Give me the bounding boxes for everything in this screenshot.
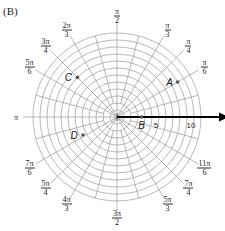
angle-denominator: 6 bbox=[28, 67, 32, 75]
grid-spoke bbox=[95, 131, 113, 199]
angle-label: 7π6 bbox=[25, 159, 35, 176]
angle-denominator: 6 bbox=[28, 168, 32, 176]
angle-denominator: 4 bbox=[44, 46, 48, 54]
angle-denominator: 6 bbox=[202, 168, 206, 176]
grid-spoke bbox=[121, 131, 139, 199]
point-d-label: D bbox=[70, 130, 77, 141]
point-a-label: A bbox=[166, 77, 173, 88]
angle-denominator: 3 bbox=[64, 205, 68, 213]
angle-denominator: 4 bbox=[44, 189, 48, 197]
angle-denominator: 4 bbox=[186, 189, 190, 197]
point-c-label: C bbox=[65, 72, 72, 83]
point-c-marker bbox=[76, 76, 80, 80]
point-b-label: B bbox=[138, 120, 145, 131]
grid-spoke bbox=[131, 95, 199, 113]
angle-label: 7π4 bbox=[183, 180, 193, 197]
angle-label: 4π3 bbox=[61, 196, 71, 213]
angle-denominator: 2 bbox=[115, 17, 119, 25]
grid-spoke bbox=[121, 36, 139, 104]
angle-label: π4 bbox=[185, 37, 191, 54]
angle-label-pi: π bbox=[14, 113, 18, 122]
angle-denominator: 4 bbox=[186, 46, 190, 54]
angle-label: 11π6 bbox=[198, 159, 212, 176]
angle-label: 5π3 bbox=[162, 196, 172, 213]
angle-label: 3π4 bbox=[41, 37, 51, 54]
angle-label: π2 bbox=[114, 8, 120, 25]
angle-denominator: 2 bbox=[115, 219, 119, 227]
angle-label: 2π3 bbox=[61, 21, 71, 38]
point-a-marker bbox=[176, 80, 180, 84]
arrow-head-icon bbox=[219, 113, 225, 122]
angle-denominator: 6 bbox=[202, 67, 206, 75]
radius-label: 10 bbox=[187, 121, 196, 130]
angle-label: π6 bbox=[201, 58, 207, 75]
radius-label: 5 bbox=[154, 121, 158, 130]
angle-denominator: 3 bbox=[165, 30, 169, 38]
angle-denominator: 3 bbox=[64, 30, 68, 38]
angle-denominator: 3 bbox=[165, 205, 169, 213]
grid-spoke bbox=[95, 36, 113, 104]
point-d-marker bbox=[81, 133, 85, 137]
angle-label: 3π2 bbox=[112, 210, 122, 227]
point-b-marker bbox=[140, 115, 144, 119]
angle-label: π3 bbox=[164, 21, 170, 38]
angle-label: 5π6 bbox=[25, 58, 35, 75]
angle-label: 5π4 bbox=[41, 180, 51, 197]
grid-spoke bbox=[36, 95, 104, 113]
